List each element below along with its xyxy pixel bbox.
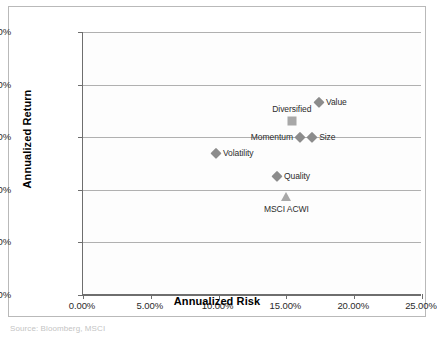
- data-point-volatility: [211, 148, 222, 159]
- data-point-size: [307, 132, 318, 143]
- data-point-momentum: [295, 132, 306, 143]
- data-label-volatility: Volatility: [223, 148, 254, 158]
- y-tick-label: 9.00%: [0, 131, 11, 142]
- y-tick-mark: [78, 32, 83, 33]
- gridline-y-6.00%: [83, 190, 421, 191]
- y-tick-label: 6.00%: [0, 184, 11, 195]
- gridline-y-3.00%: [83, 242, 421, 243]
- x-axis-title: Annualized Risk: [9, 295, 425, 307]
- data-label-momentum: Momentum: [251, 132, 293, 142]
- y-tick-mark: [78, 190, 83, 191]
- data-point-quality: [272, 170, 283, 181]
- data-label-diversified: Diversified: [272, 104, 311, 114]
- source-caption: Source: Bloomberg, MSCI: [10, 324, 105, 333]
- data-point-value: [314, 97, 325, 108]
- data-label-msci-acwi: MSCI ACWI: [264, 204, 309, 214]
- gridline-y-12.00%: [83, 85, 421, 86]
- y-tick-mark: [78, 242, 83, 243]
- y-tick-mark: [78, 137, 83, 138]
- y-tick-label: 15.00%: [0, 26, 11, 37]
- gridline-y-15.00%: [83, 32, 421, 33]
- data-label-value: Value: [326, 97, 347, 107]
- chart-figure: ValueDiversifiedMomentumSizeVolatilityQu…: [8, 6, 426, 317]
- data-point-diversified: [287, 117, 296, 126]
- data-label-quality: Quality: [284, 171, 310, 181]
- data-point-msci-acwi: [281, 192, 291, 201]
- data-label-size: Size: [319, 132, 335, 142]
- y-tick-mark: [78, 85, 83, 86]
- plot-area: ValueDiversifiedMomentumSizeVolatilityQu…: [82, 32, 421, 295]
- y-axis-title: Annualized Return: [21, 39, 33, 239]
- y-tick-label: 3.00%: [0, 236, 11, 247]
- y-tick-label: 12.00%: [0, 79, 11, 90]
